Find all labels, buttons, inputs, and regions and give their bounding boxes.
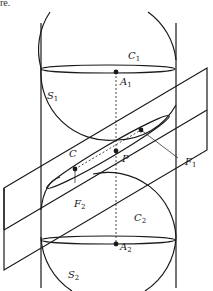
f1-leader	[141, 130, 178, 158]
label-s1: S1	[47, 91, 58, 103]
lower-sphere-outline	[41, 172, 176, 291]
circle-c1	[41, 65, 175, 73]
upper-sphere-outline	[39, 12, 176, 140]
label-c1: C1	[128, 51, 140, 63]
point-a1	[114, 70, 119, 75]
label-c: C	[69, 149, 77, 159]
label-f1: F1	[185, 157, 196, 169]
label-a1: A1	[120, 77, 132, 89]
label-p: P	[122, 154, 129, 164]
dandelin-spheres-diagram	[0, 0, 213, 291]
label-f2: F2	[74, 199, 85, 211]
circle-c2	[41, 236, 175, 244]
point-f1	[139, 128, 144, 133]
label-a2: A2	[120, 242, 132, 254]
label-s2: S2	[68, 270, 79, 282]
point-f2	[73, 167, 78, 172]
label-c2: C2	[134, 213, 146, 225]
point-p	[114, 149, 119, 154]
point-a2	[114, 242, 119, 247]
lower-sphere-left-arc	[41, 177, 60, 210]
